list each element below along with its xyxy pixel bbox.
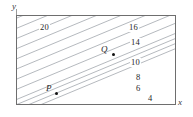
contour-label: 16: [128, 23, 139, 32]
contour-label: 8: [135, 73, 141, 82]
contour-label: 14: [130, 38, 141, 47]
contour-label: 6: [135, 84, 141, 93]
x-axis-label: x: [178, 98, 182, 107]
plot-frame: 20161410864 PQ: [16, 15, 176, 105]
contour-plot-figure: y x 20161410864 PQ: [0, 0, 193, 117]
contour-label: 4: [147, 94, 153, 103]
y-axis-label: y: [12, 2, 16, 11]
contour-label: 10: [130, 58, 141, 67]
point-label: Q: [101, 45, 108, 54]
contour-label: 20: [39, 23, 50, 32]
point-label: P: [46, 84, 52, 93]
